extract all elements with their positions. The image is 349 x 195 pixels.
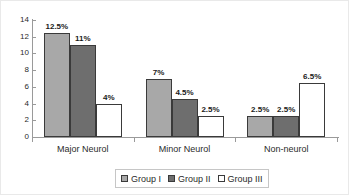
legend-item-group-iii: Group III — [218, 174, 263, 184]
category-label-2: Minor Neurol — [134, 144, 236, 155]
bar-value-label: 7% — [140, 68, 178, 77]
y-axis-tick-label: 6 — [3, 83, 29, 91]
y-axis-tick-label: 4 — [3, 100, 29, 108]
bar-3-2 — [198, 116, 224, 137]
y-axis-tick-label: 8 — [3, 66, 29, 74]
category-tick — [337, 138, 338, 142]
y-axis-tick-label: 2 — [3, 116, 29, 124]
legend-label-group-i: Group I — [131, 174, 161, 184]
bar-chart: 14121086420 12.5%11%4%7%4.5%2.5%2.5%2.5%… — [0, 0, 349, 195]
bar-value-label: 4% — [90, 93, 128, 102]
bar-value-label: 11% — [64, 34, 102, 43]
x-axis-line — [32, 137, 339, 138]
y-axis-tick-label: 0 — [3, 133, 29, 141]
chart-legend: Group I Group II Group III — [115, 169, 269, 188]
legend-label-group-iii: Group III — [228, 174, 263, 184]
category-label-1: Major Neurol — [32, 144, 134, 155]
legend-swatch-group-ii — [168, 175, 175, 182]
bar-value-label: 2.5% — [192, 105, 230, 114]
y-axis-tick-label: 12 — [3, 33, 29, 41]
category-tick — [134, 138, 135, 142]
category-label-3: Non-neurol — [235, 144, 337, 155]
y-axis-tick-label: 14 — [3, 16, 29, 24]
bar-value-label: 6.5% — [293, 72, 331, 81]
bar-value-label: 12.5% — [38, 22, 76, 31]
legend-label-group-ii: Group II — [178, 174, 211, 184]
plot-area: 12.5%11%4%7%4.5%2.5%2.5%2.5%6.5% — [32, 20, 337, 137]
bar-value-label: 4.5% — [166, 88, 204, 97]
bar-1-1 — [44, 33, 70, 137]
y-axis-tick-label: 10 — [3, 49, 29, 57]
bar-2-3 — [273, 116, 299, 137]
bar-3-1 — [96, 104, 122, 137]
legend-item-group-i: Group I — [121, 174, 161, 184]
category-tick — [32, 138, 33, 142]
category-tick — [235, 138, 236, 142]
bar-1-3 — [247, 116, 273, 137]
bar-2-1 — [70, 45, 96, 137]
bar-1-2 — [146, 79, 172, 138]
legend-swatch-group-iii — [218, 175, 225, 182]
legend-item-group-ii: Group II — [168, 174, 211, 184]
legend-swatch-group-i — [121, 175, 128, 182]
y-axis-labels: 14121086420 — [0, 0, 29, 195]
bar-3-3 — [299, 83, 325, 137]
